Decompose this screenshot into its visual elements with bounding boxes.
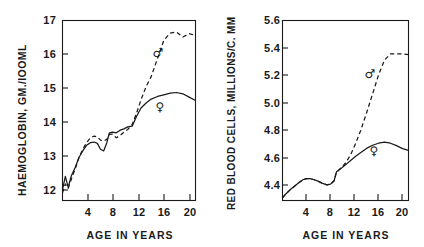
x-tick-marks: [306, 194, 402, 200]
x-tick-label: 12: [133, 206, 146, 218]
series-male-haemoglobin: [63, 32, 196, 193]
x-tick-label: 12: [348, 206, 361, 218]
x-tick-label: 8: [110, 206, 116, 218]
series-male-rbc: [283, 54, 409, 198]
x-tick-label: 16: [158, 206, 171, 218]
plot-area-rbc: [212, 0, 424, 247]
x-tick-label: 4: [85, 206, 91, 218]
series-female-rbc: [283, 142, 409, 198]
x-tick-label: 8: [327, 206, 333, 218]
female-symbol-annotation: ♀: [370, 145, 379, 157]
figure-two-panel-blood-indices: HAEMOGLOBIN, GM./IOOML 17 16 15 14 13 12: [0, 0, 424, 247]
male-symbol-annotation: ♂: [153, 47, 164, 59]
x-axis-title-haemoglobin: AGE IN YEARS: [86, 229, 173, 241]
x-tick-label: 20: [396, 206, 409, 218]
x-tick-label: 4: [303, 206, 309, 218]
x-tick-marks: [88, 194, 190, 200]
plot-area-haemoglobin: [0, 0, 212, 247]
panel-haemoglobin: HAEMOGLOBIN, GM./IOOML 17 16 15 14 13 12: [0, 0, 212, 247]
panel-red-blood-cells: RED BLOOD CELLS, MILLIONS/C. MM 5.6 5.4 …: [212, 0, 424, 247]
x-axis-title-rbc: AGE IN YEARS: [302, 229, 389, 241]
x-tick-label: 20: [184, 206, 197, 218]
series-female-haemoglobin: [63, 93, 196, 190]
x-tick-label: 16: [372, 206, 385, 218]
male-symbol-annotation: ♂: [365, 68, 376, 80]
female-symbol-annotation: ♀: [156, 101, 165, 113]
